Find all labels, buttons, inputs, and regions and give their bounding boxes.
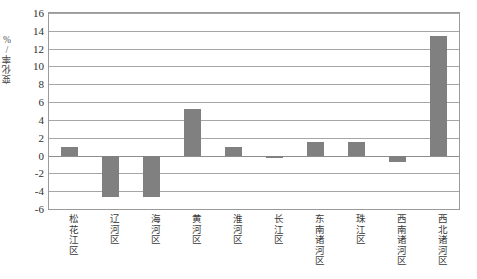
y-axis-tick-label: -4 <box>35 186 44 197</box>
bar-series <box>49 13 459 209</box>
y-axis-tick-label: 6 <box>39 97 45 108</box>
x-axis-tick-label: 辽河区 <box>101 214 119 246</box>
y-axis-title: 变化率/% <box>2 34 16 84</box>
bar <box>307 142 324 155</box>
x-axis-tick-label: 东南诸河区 <box>306 214 324 267</box>
x-axis-tick-label: 西北诸河区 <box>429 214 447 267</box>
x-axis-tick-label: 西南诸河区 <box>388 214 406 267</box>
bar <box>389 156 406 162</box>
bar <box>184 109 201 155</box>
y-axis-tick-label: 4 <box>39 114 45 125</box>
y-axis-tick-label: -6 <box>35 204 44 215</box>
bar-chart: 变化率/% 1614121086420-2-4-6 松花江区辽河区海河区黄河区淮… <box>0 0 477 279</box>
y-axis-tick-label: 2 <box>39 132 45 143</box>
bar <box>102 156 119 197</box>
bar <box>266 156 283 159</box>
y-axis-tick-label: 0 <box>39 150 45 161</box>
x-axis-tick-label: 淮河区 <box>224 214 242 246</box>
bar <box>225 147 242 156</box>
y-axis-tick-label: -2 <box>35 168 44 179</box>
bar <box>143 156 160 197</box>
y-axis-tick-label: 14 <box>33 25 44 36</box>
bar <box>430 36 447 155</box>
y-axis-tick-label: 10 <box>33 61 44 72</box>
x-axis-tick-label: 珠江区 <box>347 214 365 246</box>
x-axis-tick-labels: 松花江区辽河区海河区黄河区淮河区长江区东南诸河区珠江区西南诸河区西北诸河区 <box>48 214 460 276</box>
bar <box>61 147 78 156</box>
x-axis-tick-label: 松花江区 <box>60 214 78 256</box>
y-axis-tick-label: 8 <box>39 79 45 90</box>
gridline <box>49 209 459 210</box>
bar <box>348 142 365 155</box>
y-axis-tick-labels: 1614121086420-2-4-6 <box>18 12 46 210</box>
x-axis-tick-label: 海河区 <box>142 214 160 246</box>
x-axis-tick-label: 黄河区 <box>183 214 201 246</box>
y-axis-tick-label: 12 <box>33 43 44 54</box>
x-axis-tick-label: 长江区 <box>265 214 283 246</box>
y-axis-tick-label: 16 <box>33 8 44 19</box>
plot-area <box>48 12 460 210</box>
